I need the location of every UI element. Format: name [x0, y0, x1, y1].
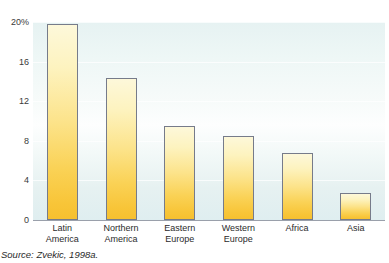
bar [282, 153, 313, 220]
bar-chart-figure: 048121620% LatinAmericaNorthernAmericaEa… [0, 0, 389, 263]
x-axis-tick-label-line1: Africa [285, 223, 308, 233]
clipped-title-remnant [0, 0, 389, 8]
x-axis: LatinAmericaNorthernAmericaEasternEurope… [33, 223, 385, 249]
bar-slot [164, 22, 195, 220]
x-axis-tick-label-line2: America [92, 234, 151, 245]
x-axis-tick-label: Africa [268, 223, 327, 234]
bar-slot [282, 22, 313, 220]
source-note: Source: Zvekic, 1998a. [1, 249, 98, 260]
x-axis-tick-label: LatinAmerica [33, 223, 92, 245]
y-axis-tick-label: 20% [11, 18, 29, 27]
y-axis-tick-label: 0 [24, 216, 29, 225]
x-axis-tick-label-line1: Asia [347, 223, 365, 233]
bar [223, 136, 254, 220]
x-axis-tick-label-line1: Northern [103, 223, 138, 233]
y-axis-tick-label: 16 [19, 57, 29, 66]
x-axis-tick-label-line1: Latin [53, 223, 73, 233]
y-axis-tick-label: 4 [24, 176, 29, 185]
x-axis-tick-label-line2: Europe [150, 234, 209, 245]
bar-slot [47, 22, 78, 220]
x-axis-tick-label-line2: America [33, 234, 92, 245]
bar [106, 78, 137, 220]
bar [340, 193, 371, 220]
bar-slot [340, 22, 371, 220]
bar [47, 24, 78, 220]
x-axis-tick-label-line1: Western [222, 223, 255, 233]
bar-slot [223, 22, 254, 220]
x-axis-tick-label: EasternEurope [150, 223, 209, 245]
x-axis-tick-label-line2: Europe [209, 234, 268, 245]
bar-slot [106, 22, 137, 220]
x-axis-tick-label: NorthernAmerica [92, 223, 151, 245]
bar [164, 126, 195, 220]
bar-series [33, 22, 385, 220]
x-axis-tick-label: Asia [326, 223, 385, 234]
y-axis-tick-label: 12 [19, 97, 29, 106]
x-axis-tick-label-line1: Eastern [164, 223, 195, 233]
x-axis-line [33, 220, 385, 221]
y-axis-tick-label: 8 [24, 136, 29, 145]
x-axis-tick-label: WesternEurope [209, 223, 268, 245]
y-axis: 048121620% [0, 22, 29, 220]
